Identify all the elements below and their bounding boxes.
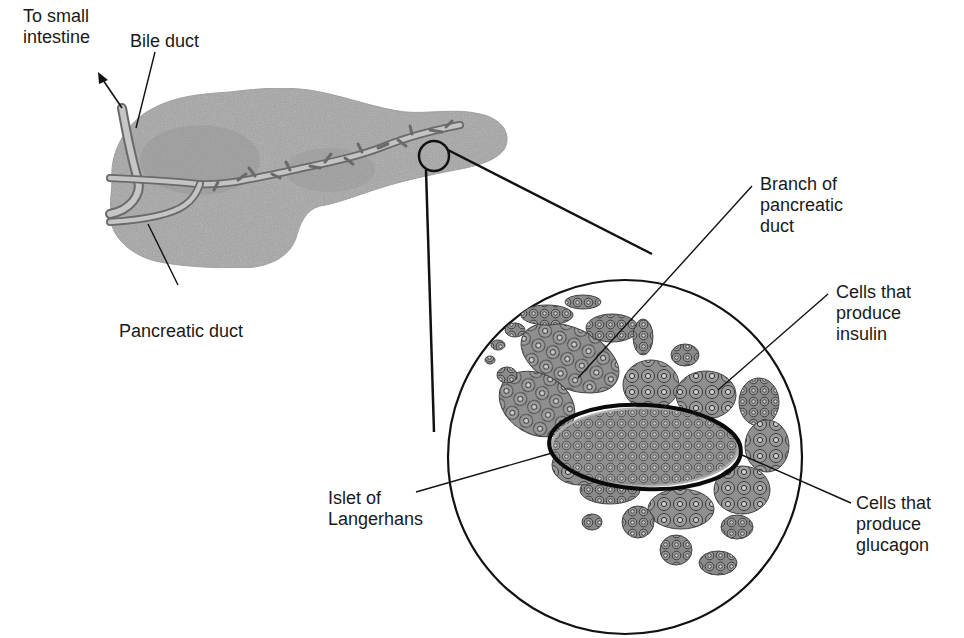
- label-to-small-intestine: To small intestine: [23, 6, 90, 48]
- magnified-view: [448, 280, 802, 634]
- zoom-connector-lower: [426, 170, 434, 432]
- label-cells-produce-insulin: Cells that produce insulin: [836, 282, 911, 345]
- zoom-connector-upper: [448, 150, 652, 254]
- label-bile-duct: Bile duct: [130, 31, 199, 52]
- arrow-to-small-intestine: [98, 72, 122, 108]
- pancreas-diagram: To small intestine Bile duct Pancreatic …: [0, 0, 964, 638]
- label-cells-produce-glucagon: Cells that produce glucagon: [856, 493, 931, 556]
- label-pancreatic-duct: Pancreatic duct: [119, 321, 243, 342]
- label-islet-of-langerhans: Islet of Langerhans: [328, 488, 423, 530]
- label-branch-of-pancreatic-duct: Branch of pancreatic duct: [760, 174, 843, 237]
- diagram-canvas: [0, 0, 964, 638]
